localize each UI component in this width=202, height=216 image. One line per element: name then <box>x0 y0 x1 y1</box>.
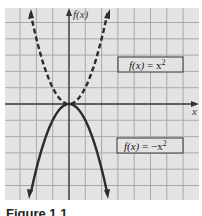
label-x-squared: f(x) = x2 <box>118 57 183 72</box>
x-axis-label: x <box>191 105 197 117</box>
label-neg-x-squared: f(x) = −x2 <box>117 138 183 153</box>
y-axis-label: f(x) <box>73 8 89 21</box>
svg-text:f(x) = −x2: f(x) = −x2 <box>124 139 167 153</box>
figure-caption: Figure 1.1 <box>6 207 67 216</box>
parabola-figure: x f(x) f(x) = x2 f(x) = −x2 <box>0 0 202 216</box>
svg-text:f(x) = x2: f(x) = x2 <box>129 58 165 72</box>
